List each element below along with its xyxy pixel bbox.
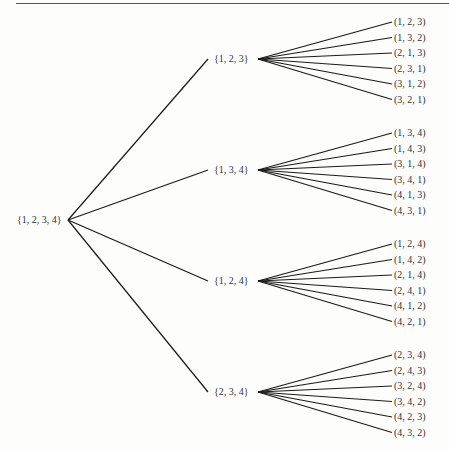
edge-root-to-subset	[68, 220, 208, 281]
permutation-leaf: (1, 2, 3)	[394, 16, 426, 28]
permutation-leaf: (2, 4, 3)	[394, 365, 426, 377]
edge-root-to-subset	[68, 220, 208, 392]
permutation-leaf: (1, 3, 4)	[394, 127, 426, 139]
permutation-leaf: (3, 4, 1)	[394, 174, 426, 186]
permutation-leaf: (1, 3, 2)	[394, 32, 426, 44]
permutation-leaf: (2, 4, 1)	[394, 285, 426, 297]
edge-subset-to-permutation	[258, 281, 392, 306]
subset-node: {1, 2, 4}	[214, 275, 249, 287]
edge-subset-to-permutation	[258, 170, 392, 195]
edge-subset-to-permutation	[258, 59, 392, 84]
root-node: {1, 2, 3, 4}	[17, 214, 62, 226]
permutation-leaf: (1, 4, 3)	[394, 143, 426, 155]
edge-subset-to-permutation	[258, 392, 392, 433]
permutation-leaf: (1, 2, 4)	[394, 238, 426, 250]
edge-subset-to-permutation	[258, 392, 392, 417]
permutation-leaf: (3, 2, 1)	[394, 94, 426, 106]
edge-subset-to-permutation	[258, 59, 392, 69]
permutation-leaf: (4, 1, 3)	[394, 189, 426, 201]
edge-subset-to-permutation	[258, 59, 392, 100]
edge-subset-to-permutation	[258, 170, 392, 211]
permutation-leaf: (2, 1, 3)	[394, 47, 426, 59]
permutation-leaf: (4, 2, 1)	[394, 316, 426, 328]
permutation-leaf: (2, 3, 4)	[394, 349, 426, 361]
edge-root-to-subset	[68, 59, 208, 220]
edge-subset-to-permutation	[258, 170, 392, 180]
permutation-leaf: (4, 3, 1)	[394, 205, 426, 217]
subset-node: {1, 3, 4}	[214, 164, 249, 176]
permutation-leaf: (4, 2, 3)	[394, 411, 426, 423]
permutation-leaf: (3, 1, 4)	[394, 158, 426, 170]
permutation-leaf: (4, 3, 2)	[394, 427, 426, 439]
edge-subset-to-permutation	[258, 392, 392, 402]
edge-subset-to-permutation	[258, 281, 392, 291]
subset-node: {2, 3, 4}	[214, 386, 249, 398]
subset-node: {1, 2, 3}	[214, 53, 249, 65]
permutation-leaf: (3, 1, 2)	[394, 78, 426, 90]
permutation-leaf: (3, 2, 4)	[394, 380, 426, 392]
permutation-leaf: (1, 4, 2)	[394, 254, 426, 266]
permutation-leaf: (4, 1, 2)	[394, 300, 426, 312]
permutation-leaf: (3, 4, 2)	[394, 396, 426, 408]
edge-subset-to-permutation	[258, 281, 392, 322]
permutation-leaf: (2, 1, 4)	[394, 269, 426, 281]
permutation-leaf: (2, 3, 1)	[394, 63, 426, 75]
